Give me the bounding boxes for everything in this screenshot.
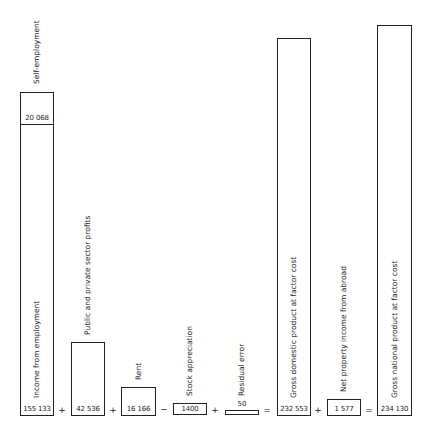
- operator-minus: −: [157, 404, 171, 414]
- operator-plus: +: [106, 405, 120, 415]
- self-employment-divider: [21, 124, 53, 125]
- gnp-label: Gross national product at factor cost: [390, 261, 399, 398]
- bar-net-property-income: 1 577: [327, 399, 361, 416]
- bar-rent: 16 166: [121, 387, 156, 416]
- self-employment-value: 20 068: [21, 114, 53, 122]
- bar-stock-appreciation: 1400: [173, 403, 207, 415]
- operator-plus: +: [55, 405, 69, 415]
- operator-equals: =: [260, 405, 274, 415]
- stock-appreciation-label: Stock appreciation: [185, 326, 194, 396]
- profits-label: Public and private sector profits: [83, 216, 92, 335]
- bar-residual-error: [225, 410, 259, 415]
- gdp-label: Gross domestic product at factor cost: [289, 257, 298, 398]
- income-from-employment-label: Income from employment: [32, 301, 41, 398]
- operator-equals: =: [362, 405, 376, 415]
- self-employment-label: Self-employment: [32, 20, 41, 84]
- gnp-value: 234 130: [378, 405, 411, 413]
- residual-error-label: Residual error: [237, 344, 246, 396]
- stock-appreciation-value: 1400: [174, 405, 206, 413]
- profits-value: 42 536: [72, 405, 104, 413]
- rent-value: 16 166: [122, 405, 155, 413]
- operator-plus: +: [311, 405, 325, 415]
- operator-plus: +: [208, 405, 222, 415]
- bar-profits: 42 536: [71, 342, 105, 416]
- net-property-income-label: Net property income from abroad: [339, 266, 348, 392]
- gdp-value: 232 553: [278, 405, 310, 413]
- net-property-income-value: 1 577: [328, 405, 360, 413]
- residual-error-value: 50: [225, 400, 259, 408]
- rent-label: Rent: [134, 363, 143, 380]
- income-from-employment-value: 155 133: [21, 405, 53, 413]
